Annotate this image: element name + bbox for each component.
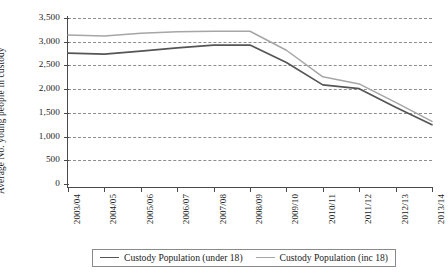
legend-item-under-18: Custody Population (under 18) bbox=[100, 253, 243, 263]
x-axis-tick-label: 2007/08 bbox=[218, 194, 228, 224]
y-axis-tick-label: 3,500 bbox=[0, 13, 60, 22]
x-axis-tick-label: 2012/13 bbox=[400, 194, 410, 224]
x-axis-tick bbox=[177, 187, 178, 192]
x-axis-tick-label: 2013/14 bbox=[436, 194, 446, 224]
x-axis-tick-label: 2006/07 bbox=[181, 194, 191, 224]
x-axis-tick-label: 2011/12 bbox=[363, 194, 373, 224]
x-axis-tick-label: 2010/11 bbox=[327, 194, 337, 224]
y-axis-tick-label: 0 bbox=[0, 179, 60, 188]
x-axis-tick bbox=[286, 187, 287, 192]
x-axis-tick bbox=[104, 187, 105, 192]
legend-label-under-18: Custody Population (under 18) bbox=[124, 253, 243, 263]
x-axis-tick bbox=[141, 187, 142, 192]
y-axis-tick-label: 1,000 bbox=[0, 132, 60, 141]
plot-area bbox=[68, 18, 432, 184]
y-axis-tick bbox=[64, 184, 69, 185]
x-axis-tick bbox=[68, 187, 69, 192]
y-axis-tick-label: 500 bbox=[0, 156, 60, 165]
x-axis-tick bbox=[214, 187, 215, 192]
y-axis-tick-label: 3,000 bbox=[0, 37, 60, 46]
x-axis-tick-label: 2008/09 bbox=[254, 194, 264, 224]
x-axis-tick bbox=[396, 187, 397, 192]
x-axis-tick-label: 2004/05 bbox=[108, 194, 118, 224]
legend-line-swatch-under-18 bbox=[100, 257, 119, 258]
custody-population-line-chart: Average No. young people in custody 0500… bbox=[0, 0, 448, 278]
x-axis-tick bbox=[432, 187, 433, 192]
y-axis-tick-label: 2,500 bbox=[0, 61, 60, 70]
y-axis-tick-label: 1,500 bbox=[0, 108, 60, 117]
legend-item-inc-18: Custody Population (inc 18) bbox=[256, 253, 388, 263]
series-line-under-18 bbox=[68, 45, 432, 125]
legend-label-inc-18: Custody Population (inc 18) bbox=[280, 253, 388, 263]
x-axis-tick-label: 2003/04 bbox=[72, 194, 82, 224]
x-axis-tick bbox=[323, 187, 324, 192]
x-axis-tick bbox=[359, 187, 360, 192]
y-axis-tick-label: 2,000 bbox=[0, 85, 60, 94]
legend-line-swatch-inc-18 bbox=[256, 257, 275, 258]
chart-legend: Custody Population (under 18) Custody Po… bbox=[92, 249, 396, 267]
series-group bbox=[68, 18, 432, 184]
x-axis-tick-label: 2005/06 bbox=[145, 194, 155, 224]
x-axis-tick bbox=[250, 187, 251, 192]
x-axis-tick-label: 2009/10 bbox=[290, 194, 300, 224]
